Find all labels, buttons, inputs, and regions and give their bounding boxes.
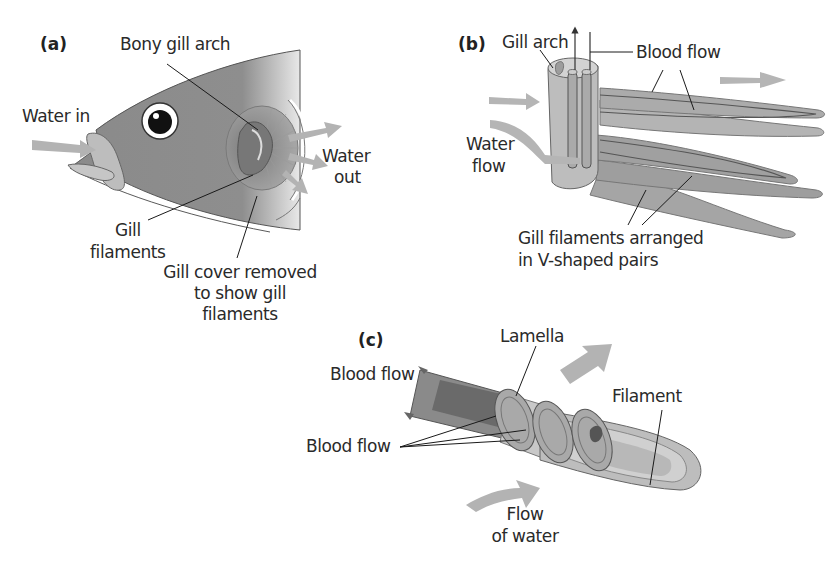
label-lamella: Lamella	[500, 326, 564, 347]
label-flow-of-water-line2: of water	[470, 526, 580, 547]
label-gill-cover-line1: Gill cover removed	[150, 262, 330, 283]
label-water-flow-line1: Water	[466, 134, 514, 155]
label-gill-arch: Gill arch	[502, 32, 568, 53]
label-v-shaped-pairs-line1: Gill filaments arranged	[518, 228, 703, 249]
label-water-flow-line2: flow	[472, 156, 505, 177]
label-blood-flow-b: Blood flow	[636, 42, 720, 63]
filament-illustration	[404, 366, 701, 490]
gill-structure-figure: (a) Bony gill arch Water in Water out Gi…	[0, 0, 837, 566]
label-gill-cover-line2: to show gill	[150, 283, 330, 304]
label-flow-of-water-line1: Flow	[470, 504, 580, 525]
label-gill-filaments-line2: filaments	[90, 242, 166, 263]
label-blood-flow-c-top: Blood flow	[330, 364, 414, 385]
label-gill-filaments-line1: Gill	[115, 220, 141, 241]
label-filament: Filament	[612, 386, 682, 407]
label-water-out-line1: Water	[322, 146, 370, 167]
panel-c-letter: (c)	[358, 330, 384, 350]
label-bony-gill-arch: Bony gill arch	[120, 34, 230, 55]
fish-head-illustration	[0, 0, 837, 566]
label-water-out-line2: out	[334, 167, 361, 188]
label-water-in: Water in	[22, 106, 90, 127]
panel-a-letter: (a)	[40, 34, 67, 54]
label-gill-cover-line3: filaments	[150, 304, 330, 325]
label-v-shaped-pairs-line2: in V-shaped pairs	[518, 250, 658, 271]
label-blood-flow-c-bottom: Blood flow	[306, 436, 390, 457]
fish-body	[68, 50, 308, 232]
panel-b-letter: (b)	[458, 34, 486, 54]
